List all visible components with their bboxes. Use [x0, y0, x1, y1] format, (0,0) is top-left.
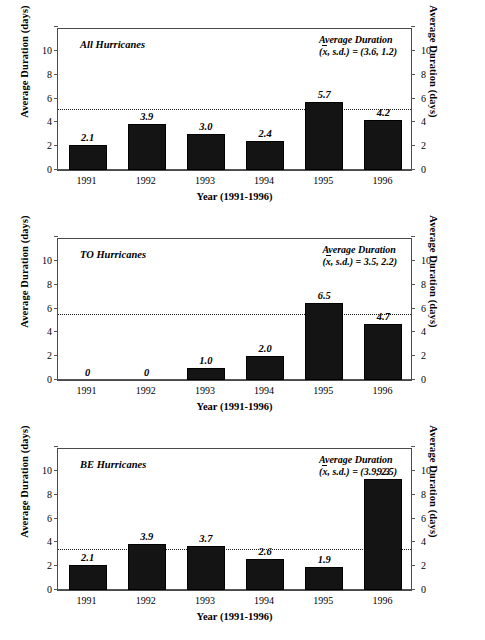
plot-area: 00224466881010001.02.06.54.7TO Hurricane…	[57, 238, 412, 381]
y-tick-label-right-6: 6	[421, 514, 435, 524]
y-tick-label-right-10: 10	[421, 466, 435, 476]
bar-slot: 3.0	[176, 29, 235, 170]
bar[interactable]	[69, 565, 107, 590]
x-axis-label: Year (1991-1996)	[57, 191, 412, 202]
y-tick-label-left-0: 0	[38, 375, 52, 385]
bar-value-label: 2.1	[58, 552, 117, 563]
stat-values: , s.d.) = 3.5, 2.2)	[331, 256, 397, 267]
y-axis-label-left: Average Duration (days)	[19, 402, 30, 562]
x-tick-label-1996: 1996	[353, 595, 412, 606]
y-tick-label-left-8: 8	[38, 70, 52, 80]
bar-value-label: 2.6	[236, 546, 295, 557]
bar[interactable]	[128, 544, 166, 590]
statistics-annotation-line1: Average Duration	[319, 34, 397, 46]
bar-slot: 0	[117, 239, 176, 380]
bar[interactable]	[246, 141, 284, 170]
y-tick-label-right-4: 4	[421, 537, 435, 547]
x-tick-label-1991: 1991	[57, 385, 116, 396]
x-tick-label-1992: 1992	[116, 175, 175, 186]
statistics-annotation-line2: (x, s.d.) = 3.5, 2.2)	[322, 256, 397, 268]
bar[interactable]	[246, 559, 284, 590]
y-tick-right-top	[411, 236, 415, 237]
y-tick-right-top	[411, 446, 415, 447]
statistics-annotation-line2: (x, s.d.) = (3.9, 2.5)	[319, 466, 397, 478]
bar[interactable]	[246, 356, 284, 380]
y-tick-label-left-8: 8	[38, 490, 52, 500]
stat-values: , s.d.) = (3.9, 2.5)	[327, 466, 397, 477]
statistics-annotation: Average Duration(x, s.d.) = (3.9, 2.5)	[319, 454, 397, 478]
x-tick-label-1992: 1992	[116, 595, 175, 606]
x-bar-symbol: x	[322, 466, 327, 478]
y-tick-label-right-2: 2	[421, 351, 435, 361]
bar-slot: 3.9	[117, 29, 176, 170]
statistics-annotation: Average Duration(x, s.d.) = 3.5, 2.2)	[322, 244, 397, 268]
y-tick-label-left-10: 10	[38, 46, 52, 56]
bar-slot: 2.1	[58, 29, 117, 170]
bar[interactable]	[187, 368, 225, 380]
bar-value-label: 3.9	[117, 111, 176, 122]
bar-value-label: 0	[117, 367, 176, 378]
bar-value-label: 2.4	[236, 128, 295, 139]
y-tick-label-left-10: 10	[38, 256, 52, 266]
y-tick-right-top	[411, 26, 415, 27]
bar-slot: 3.7	[176, 449, 235, 590]
series-title: BE Hurricanes	[80, 459, 146, 470]
bar-slot: 0	[58, 239, 117, 380]
bar-slot: 2.4	[236, 29, 295, 170]
bar[interactable]	[69, 145, 107, 170]
y-axis-label-left: Average Duration (days)	[19, 192, 30, 352]
y-tick-label-left-10: 10	[38, 466, 52, 476]
bar[interactable]	[187, 134, 225, 170]
y-tick-label-left-2: 2	[38, 141, 52, 151]
x-tick-label-1996: 1996	[353, 385, 412, 396]
series-title: TO Hurricanes	[80, 249, 146, 260]
bar[interactable]	[364, 479, 402, 590]
statistics-annotation: Average Duration(x, s.d.) = (3.6, 1.2)	[319, 34, 397, 58]
y-tick-label-right-4: 4	[421, 327, 435, 337]
y-tick-label-right-10: 10	[421, 46, 435, 56]
y-tick-label-right-2: 2	[421, 561, 435, 571]
bar-value-label: 1.9	[295, 554, 354, 565]
y-tick-label-left-4: 4	[38, 327, 52, 337]
bar-slot: 2.1	[58, 449, 117, 590]
y-tick-label-left-6: 6	[38, 94, 52, 104]
statistics-annotation-line1: Average Duration	[319, 454, 397, 466]
x-axis-label: Year (1991-1996)	[57, 611, 412, 622]
y-tick-label-right-0: 0	[421, 585, 435, 595]
stat-values: , s.d.) = (3.6, 1.2)	[327, 46, 397, 57]
y-tick-left-top	[54, 446, 58, 447]
y-tick-label-left-6: 6	[38, 514, 52, 524]
bar[interactable]	[305, 102, 343, 170]
y-tick-label-right-8: 8	[421, 70, 435, 80]
bar[interactable]	[187, 546, 225, 590]
y-tick-label-right-8: 8	[421, 280, 435, 290]
bar-value-label: 5.7	[295, 89, 354, 100]
bar-slot: 1.0	[176, 239, 235, 380]
bar-value-label: 0	[58, 367, 117, 378]
x-bar-symbol: x	[322, 46, 327, 58]
y-tick-label-left-4: 4	[38, 537, 52, 547]
bar[interactable]	[305, 303, 343, 380]
x-tick-label-1993: 1993	[175, 385, 234, 396]
bar-value-label: 4.7	[354, 311, 413, 322]
statistics-annotation-line2: (x, s.d.) = (3.6, 1.2)	[319, 46, 397, 58]
y-tick-label-right-6: 6	[421, 304, 435, 314]
bar-slot: 2.0	[236, 239, 295, 380]
bar[interactable]	[364, 324, 402, 380]
y-tick-label-right-2: 2	[421, 141, 435, 151]
chart-panel-to-hurricanes: Average Duration (days)Average Duration …	[0, 210, 485, 420]
y-tick-label-left-0: 0	[38, 585, 52, 595]
bar[interactable]	[128, 124, 166, 170]
bar[interactable]	[364, 120, 402, 170]
figure-page: Average Duration (days)Average Duration …	[0, 0, 485, 640]
chart-panel-be-hurricanes: Average Duration (days)Average Duration …	[0, 420, 485, 630]
x-tick-label-1996: 1996	[353, 175, 412, 186]
y-tick-label-right-10: 10	[421, 256, 435, 266]
bar-value-label: 1.0	[176, 355, 235, 366]
x-tick-label-1993: 1993	[175, 175, 234, 186]
series-title: All Hurricanes	[80, 39, 145, 50]
x-tick-label-1994: 1994	[235, 385, 294, 396]
bar-value-label: 2.0	[236, 343, 295, 354]
bar[interactable]	[305, 567, 343, 590]
x-tick-label-1994: 1994	[235, 175, 294, 186]
